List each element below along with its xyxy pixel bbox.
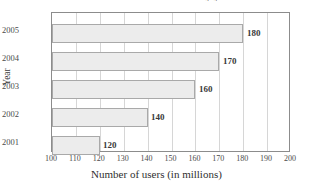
x-axis-tick-190: 190 — [253, 154, 279, 163]
bar-2003 — [52, 80, 195, 99]
chart-title: Number of internet users by year — [0, 0, 313, 1]
y-axis-tick-2005: 2005 — [0, 26, 19, 35]
y-axis-tick-2003: 2003 — [0, 82, 19, 91]
x-axis-label: Number of users (in millions) — [0, 168, 313, 180]
bar-value-2001: 120 — [103, 140, 117, 150]
y-axis-tick-2004: 2004 — [0, 54, 19, 63]
bar-value-2005: 180 — [247, 28, 261, 38]
x-axis-tick-160: 160 — [181, 154, 207, 163]
bar-value-2003: 160 — [199, 84, 213, 94]
gridline-190 — [267, 13, 268, 151]
x-axis-tick-120: 120 — [86, 154, 112, 163]
plot-area: 180 170 160 140 120 — [51, 12, 290, 152]
bar-2001 — [52, 136, 100, 155]
x-axis-tick-200: 200 — [277, 154, 303, 163]
x-axis-tick-170: 170 — [205, 154, 231, 163]
x-axis-tick-150: 150 — [158, 154, 184, 163]
y-axis-tick-2001: 2001 — [0, 138, 19, 147]
bar-2004 — [52, 52, 219, 71]
x-axis-tick-100: 100 — [38, 154, 64, 163]
y-axis-tick-2002: 2002 — [0, 110, 19, 119]
bar-value-2002: 140 — [151, 112, 165, 122]
x-axis-tick-180: 180 — [229, 154, 255, 163]
bar-2002 — [52, 108, 148, 127]
x-axis-tick-110: 110 — [62, 154, 88, 163]
bar-chart: Number of internet users by year Year 20… — [0, 0, 313, 191]
bar-value-2004: 170 — [223, 56, 237, 66]
bar-2005 — [52, 24, 243, 43]
x-axis-tick-130: 130 — [110, 154, 136, 163]
x-axis-tick-140: 140 — [134, 154, 160, 163]
gridline-180 — [243, 13, 244, 151]
